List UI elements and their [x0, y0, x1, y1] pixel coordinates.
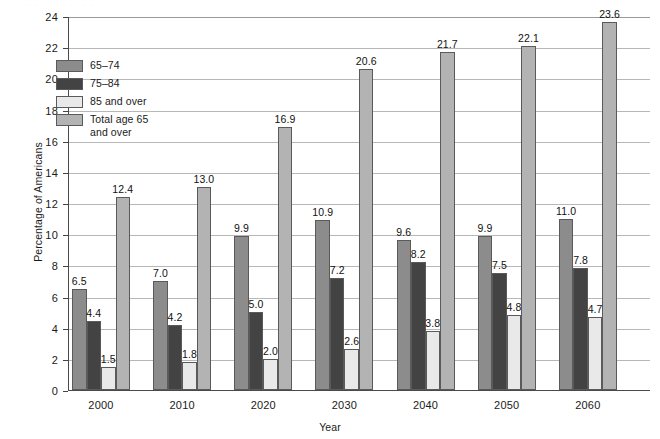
- bar: [426, 331, 441, 390]
- bar: [278, 127, 293, 390]
- legend-label: 65–74: [90, 59, 120, 72]
- x-tick-label: 2050: [494, 399, 519, 411]
- x-axis-title: Year: [0, 421, 660, 433]
- bar-value-label: 8.2: [404, 248, 433, 260]
- bar: [344, 349, 359, 390]
- bar-group: 9.97.54.822.1: [478, 17, 536, 390]
- legend-swatch: [56, 60, 83, 72]
- chart-legend: 65–7475–8485 and overTotal age 65 and ov…: [56, 59, 174, 145]
- y-tick-mark: [63, 391, 68, 392]
- legend-label: Total age 65 and over: [90, 113, 148, 139]
- bar-value-label: 4.2: [161, 311, 190, 323]
- bar-value-label: 20.6: [352, 55, 381, 67]
- bar: [182, 362, 197, 390]
- y-tick-label: 14: [34, 167, 58, 179]
- legend-item: Total age 65 and over: [56, 113, 174, 142]
- bar-value-label: 5.0: [242, 298, 271, 310]
- bar: [116, 197, 131, 390]
- bar-value-label: 13.0: [190, 173, 219, 185]
- bar-group: 9.95.02.016.9: [234, 17, 292, 390]
- y-tick-label: 6: [34, 292, 58, 304]
- y-tick-label: 18: [34, 105, 58, 117]
- bar-value-label: 16.9: [271, 113, 300, 125]
- y-tick-label: 2: [34, 354, 58, 366]
- bar: [397, 240, 412, 390]
- bar: [330, 278, 345, 390]
- x-tick-label: 2000: [88, 399, 113, 411]
- bar: [359, 69, 374, 390]
- bar: [559, 219, 574, 390]
- bar-value-label: 23.6: [595, 8, 624, 20]
- bar: [492, 273, 507, 390]
- y-tick-label: 20: [34, 73, 58, 85]
- x-tick-label: 2030: [332, 399, 357, 411]
- bar-value-label: 9.9: [471, 222, 500, 234]
- bar-value-label: 10.9: [308, 206, 337, 218]
- bar-value-label: 12.4: [109, 183, 138, 195]
- legend-swatch: [56, 96, 83, 108]
- y-tick-label: 10: [34, 229, 58, 241]
- bar-value-label: 9.9: [227, 222, 256, 234]
- y-tick-label: 8: [34, 260, 58, 272]
- x-tick-label: 2040: [413, 399, 438, 411]
- x-tick-label: 2020: [251, 399, 276, 411]
- y-tick-label: 22: [34, 42, 58, 54]
- bar-value-label: 7.2: [323, 264, 352, 276]
- legend-item: 85 and over: [56, 95, 174, 110]
- bar-value-label: 22.1: [514, 32, 543, 44]
- bar-group: 9.68.23.821.7: [397, 17, 455, 390]
- bar-chart: · · · · · · · · · · · Percentage of Amer…: [0, 0, 660, 439]
- cropped-title-remnant: · · · · · · · · · · ·: [28, 1, 101, 8]
- bar-group: 10.97.22.620.6: [315, 17, 373, 390]
- y-tick-label: 16: [34, 136, 58, 148]
- bar-value-label: 7.5: [485, 259, 514, 271]
- legend-swatch: [56, 114, 83, 126]
- x-tick-label: 2010: [170, 399, 195, 411]
- bar-value-label: 11.0: [552, 205, 581, 217]
- bar: [263, 359, 278, 390]
- bar: [234, 236, 249, 390]
- legend-label: 85 and over: [90, 95, 147, 108]
- x-axis-line: [68, 390, 650, 391]
- legend-swatch: [56, 78, 83, 90]
- y-tick-label: 12: [34, 198, 58, 210]
- bar: [588, 317, 603, 390]
- bar: [72, 289, 87, 390]
- bar-value-label: 6.5: [65, 275, 94, 287]
- bar: [101, 367, 116, 390]
- bar: [521, 46, 536, 390]
- x-tick-label: 2060: [575, 399, 600, 411]
- bar: [440, 52, 455, 390]
- y-tick-label: 4: [34, 323, 58, 335]
- bar: [197, 187, 212, 390]
- legend-label: 75–84: [90, 77, 120, 90]
- bar: [602, 22, 617, 390]
- y-tick-label: 0: [34, 385, 58, 397]
- bar-value-label: 21.7: [433, 38, 462, 50]
- y-tick-label: 24: [34, 11, 58, 23]
- bar: [507, 315, 522, 390]
- bar: [315, 220, 330, 390]
- legend-item: 75–84: [56, 77, 174, 92]
- bar: [153, 281, 168, 390]
- bar: [573, 268, 588, 390]
- bar-value-label: 4.4: [80, 307, 109, 319]
- bar-value-label: 9.6: [390, 226, 419, 238]
- legend-item: 65–74: [56, 59, 174, 74]
- bar-group: 11.07.84.723.6: [559, 17, 617, 390]
- bar-value-label: 7.8: [566, 254, 595, 266]
- bar-value-label: 7.0: [146, 267, 175, 279]
